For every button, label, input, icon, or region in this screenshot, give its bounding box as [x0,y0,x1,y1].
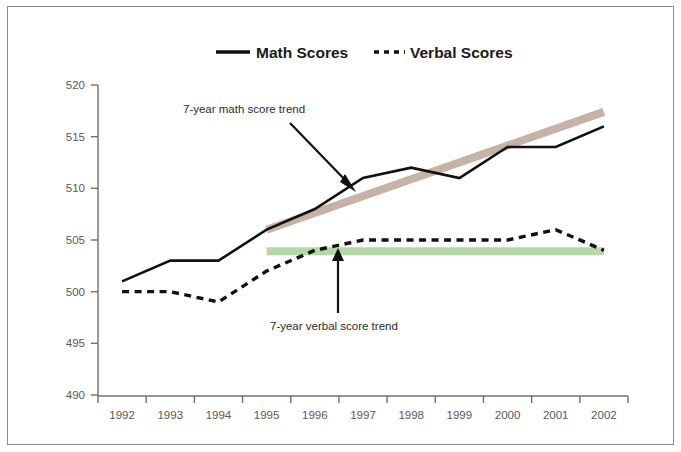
verbal-trend-annotation-text: 7-year verbal score trend [270,320,398,332]
math-trend-annotation-text: 7-year math score trend [183,103,305,115]
x-tick-label-1992: 1992 [109,409,135,421]
line-chart: Math Scores Verbal Scores 520 515 510 50… [0,0,681,452]
x-axis-tick-labels: 1992199319941995199619971998199920002001… [109,409,616,421]
x-tick-label-1999: 1999 [447,409,473,421]
y-tick-label-520: 520 [66,79,85,91]
trend-lines [267,112,604,252]
y-tick-label-505: 505 [66,234,85,246]
chart-figure: Math Scores Verbal Scores 520 515 510 50… [0,0,681,452]
x-tick-label-2001: 2001 [543,409,569,421]
series-line-verbal [122,230,604,302]
x-tick-label-1997: 1997 [350,409,376,421]
annotation-math: 7-year math score trend [183,103,356,192]
x-tick-label-1998: 1998 [398,409,424,421]
y-tick-label-510: 510 [66,182,85,194]
x-tick-label-1996: 1996 [302,409,328,421]
math-annotation-arrow-shaft [290,123,349,184]
x-tick-label-1994: 1994 [206,409,232,421]
y-tick-label-500: 500 [66,286,85,298]
math-trend-line [267,112,604,230]
legend-label-math: Math Scores [256,44,348,61]
x-tick-label-1993: 1993 [157,409,183,421]
x-tick-label-1995: 1995 [254,409,280,421]
x-axis-ticks [98,396,628,403]
y-tick-label-515: 515 [66,131,85,143]
y-tick-label-495: 495 [66,337,85,349]
legend-label-verbal: Verbal Scores [410,44,513,61]
x-tick-label-2002: 2002 [591,409,617,421]
y-tick-label-490: 490 [66,389,85,401]
series-line-math [122,126,604,281]
x-tick-label-2000: 2000 [495,409,521,421]
y-axis: 520 515 510 505 500 495 490 [66,79,98,401]
x-axis: 1992199319941995199619971998199920002001… [98,396,628,421]
chart-legend: Math Scores Verbal Scores [216,44,513,61]
data-series [122,126,604,302]
